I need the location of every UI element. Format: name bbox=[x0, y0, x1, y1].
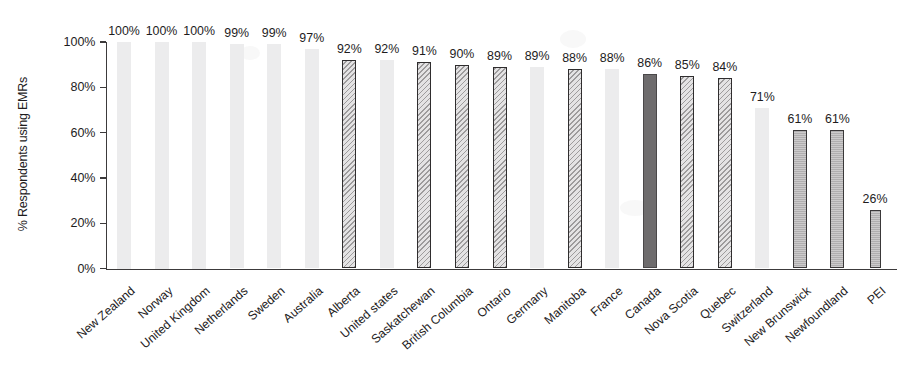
bar-norway bbox=[155, 42, 169, 269]
bar-canada bbox=[643, 74, 657, 269]
bar-switzerland bbox=[755, 108, 769, 269]
bar-alberta bbox=[342, 60, 356, 268]
bar-united-kingdom bbox=[192, 42, 206, 269]
y-axis-tick-label: 20% bbox=[50, 217, 96, 230]
bar-nova-scotia bbox=[680, 76, 694, 269]
y-axis-tick-label: 40% bbox=[50, 172, 96, 185]
y-axis-tick-label: 60% bbox=[50, 127, 96, 140]
y-axis-tick-label: 100% bbox=[50, 36, 96, 49]
bar-pei bbox=[870, 210, 881, 269]
bar-value-label: 71% bbox=[738, 91, 786, 103]
bar-new-zealand bbox=[117, 42, 131, 269]
y-axis-tick-label: 0% bbox=[50, 263, 96, 276]
y-axis-title: % Respondents using EMRs bbox=[14, 38, 32, 270]
bar-ontario bbox=[493, 67, 507, 269]
y-axis-tick-label: 80% bbox=[50, 81, 96, 94]
bar-manitoba bbox=[568, 69, 582, 268]
bar-netherlands bbox=[230, 44, 244, 268]
bar-new-brunswick bbox=[793, 130, 807, 268]
x-axis-label-pei: PEI bbox=[752, 284, 888, 379]
bar-germany bbox=[530, 67, 544, 269]
y-axis-line bbox=[106, 42, 108, 270]
bar-sweden bbox=[267, 44, 281, 268]
bar-france bbox=[605, 69, 619, 268]
bar-australia bbox=[305, 49, 319, 269]
bar-chart: % Respondents using EMRs 0%20%40%60%80%1… bbox=[0, 0, 911, 379]
x-axis-line bbox=[106, 269, 898, 271]
bar-united-states bbox=[380, 60, 394, 268]
bar-value-label: 26% bbox=[851, 193, 899, 205]
bar-value-label: 84% bbox=[701, 61, 749, 73]
bar-newfoundland bbox=[830, 130, 844, 268]
bar-saskatchewan bbox=[417, 62, 431, 268]
scan-artifact bbox=[560, 30, 586, 48]
bar-quebec bbox=[718, 78, 732, 268]
bar-british-columbia bbox=[455, 65, 469, 269]
bar-value-label: 61% bbox=[813, 113, 861, 125]
